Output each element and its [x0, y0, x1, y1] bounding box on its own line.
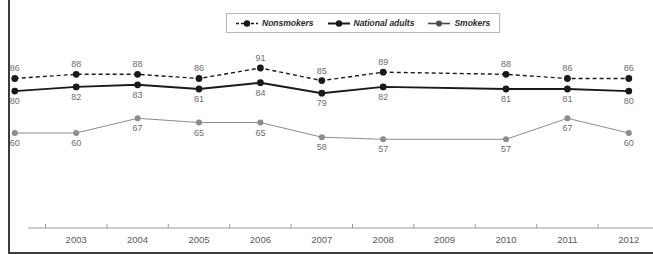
x-axis	[28, 224, 653, 228]
data-point-label: 67	[562, 123, 572, 133]
legend-label: Nonsmokers	[262, 18, 314, 28]
x-axis-tick-label: 2012	[618, 234, 639, 245]
data-point	[319, 134, 325, 140]
data-point-label: 60	[10, 138, 20, 148]
data-point	[73, 71, 80, 78]
data-point	[12, 130, 18, 136]
data-point-label: 67	[133, 123, 143, 133]
plot-area	[0, 0, 653, 254]
x-axis-tick-label: 2007	[311, 234, 332, 245]
data-point	[380, 69, 387, 76]
data-point	[626, 130, 632, 136]
data-point-label: 58	[317, 142, 327, 152]
data-point	[196, 86, 203, 93]
data-point	[135, 115, 141, 121]
data-point-label: 60	[71, 138, 81, 148]
data-point-label: 57	[501, 144, 511, 154]
data-point-label: 81	[501, 94, 511, 104]
data-point-label: 80	[10, 96, 20, 106]
data-point	[196, 120, 202, 126]
x-axis-tick-label: 2010	[495, 234, 516, 245]
data-point	[503, 86, 510, 93]
data-point-label: 57	[378, 144, 388, 154]
data-point-label: 88	[133, 59, 143, 69]
data-point-label: 82	[378, 92, 388, 102]
data-point	[625, 88, 632, 95]
data-point	[380, 136, 386, 142]
data-point-label: 86	[194, 63, 204, 73]
data-point	[625, 75, 632, 82]
data-point	[73, 84, 80, 91]
legend-item: National adults	[328, 18, 415, 28]
data-point	[564, 86, 571, 93]
x-axis-tick-label: 2005	[188, 234, 209, 245]
data-point	[564, 115, 570, 121]
legend-label: Smokers	[454, 18, 490, 28]
data-point	[11, 75, 18, 82]
data-point-label: 86	[10, 63, 20, 73]
data-point-label: 82	[71, 92, 81, 102]
data-point-label: 83	[133, 90, 143, 100]
data-point	[503, 136, 509, 142]
data-point-label: 88	[71, 59, 81, 69]
legend-item: Nonsmokers	[236, 18, 314, 28]
data-point-label: 65	[255, 128, 265, 138]
data-point-label: 85	[317, 66, 327, 76]
data-point	[257, 120, 263, 126]
legend-label: National adults	[354, 18, 415, 28]
dashed-line-marker-icon	[236, 19, 258, 28]
data-point-label: 65	[194, 128, 204, 138]
x-axis-tick-label: 2009	[434, 234, 455, 245]
data-point	[196, 75, 203, 82]
data-point	[134, 81, 141, 88]
data-point-label: 91	[255, 53, 265, 63]
data-point-label: 86	[562, 63, 572, 73]
data-point-label: 88	[501, 59, 511, 69]
data-point	[257, 65, 264, 72]
data-point-label: 60	[624, 138, 634, 148]
data-point-label: 86	[624, 63, 634, 73]
data-point-label: 81	[562, 94, 572, 104]
data-point	[73, 130, 79, 136]
x-axis-tick-label: 2011	[557, 234, 577, 245]
data-point-label: 84	[255, 88, 265, 98]
data-point	[134, 71, 141, 78]
x-axis-tick-label: 2008	[373, 234, 394, 245]
data-point	[380, 84, 387, 91]
data-point	[11, 88, 18, 95]
data-point	[257, 79, 264, 86]
data-point	[564, 75, 571, 82]
solid-line-marker-icon	[328, 19, 350, 28]
line-chart: 8688888691858988868680828381847982818180…	[0, 0, 653, 254]
data-point-label: 89	[378, 57, 388, 67]
data-point	[503, 71, 510, 78]
data-point-label: 81	[194, 94, 204, 104]
data-point	[318, 77, 325, 84]
gray-line-marker-icon	[428, 19, 450, 28]
data-point-label: 79	[317, 98, 327, 108]
data-point	[318, 90, 325, 97]
legend-item: Smokers	[428, 18, 490, 28]
data-point-label: 80	[624, 96, 634, 106]
x-axis-tick-label: 2004	[127, 234, 148, 245]
x-axis-tick-label: 2003	[66, 234, 87, 245]
chart-legend: NonsmokersNational adultsSmokers	[226, 13, 500, 33]
x-axis-tick-label: 2006	[250, 234, 271, 245]
